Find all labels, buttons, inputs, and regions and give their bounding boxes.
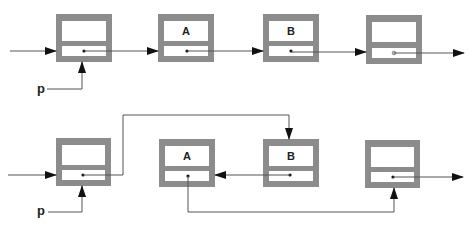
after-list: A B p	[8, 115, 463, 218]
linked-list-diagram: A B p	[0, 0, 473, 226]
node-before-1	[56, 14, 112, 62]
pointer-p-label: p	[37, 203, 45, 218]
pointer-p-arrow-icon	[47, 62, 82, 89]
pointer-p-label: p	[37, 81, 45, 96]
pointer-p-arrow-icon	[48, 186, 82, 212]
node-before-4	[366, 15, 422, 64]
node-after-3-label: B	[287, 150, 295, 162]
node-before-2-label: A	[182, 25, 190, 37]
node-after-1	[56, 138, 111, 186]
node-after-3: B	[263, 139, 319, 187]
node-after-2-label: A	[183, 150, 191, 162]
before-list: A B p	[10, 14, 464, 96]
node-before-3: B	[263, 14, 319, 62]
node-before-3-label: B	[287, 25, 295, 37]
node-after-4	[365, 140, 420, 188]
node-before-2: A	[158, 14, 214, 62]
node-after-2: A	[159, 139, 215, 187]
